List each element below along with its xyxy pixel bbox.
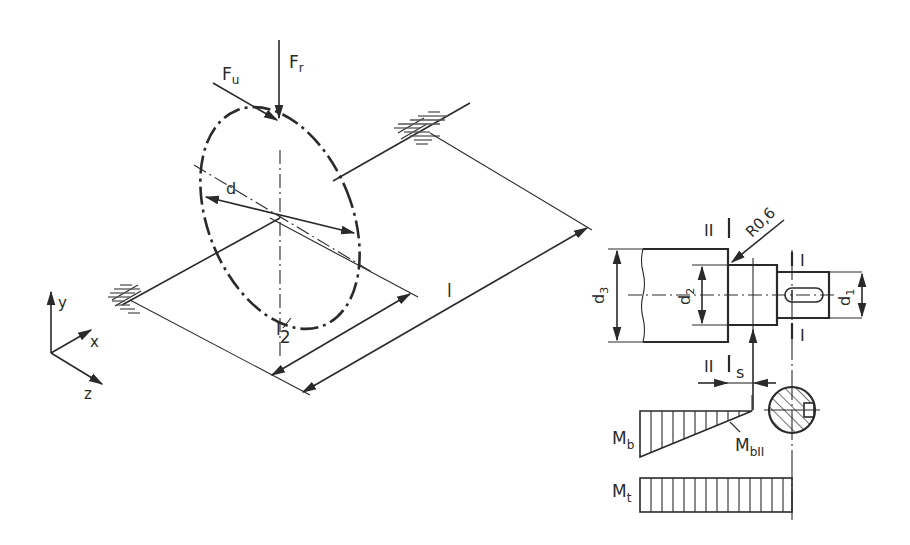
section-I-top-label: I xyxy=(800,251,805,270)
axis-x-label: x xyxy=(90,333,99,351)
fillet-radius-label: R0,6 xyxy=(742,204,779,241)
diagonal-centerline xyxy=(194,165,372,272)
mbII-leader xyxy=(730,422,740,432)
circumferential-force-label: Fu xyxy=(222,64,239,87)
section-II-bottom-label: II xyxy=(704,357,713,376)
torsion-moment-rect xyxy=(640,478,792,512)
shaft-detail-view: d3 d2 d1 R0,6 II II I I s xyxy=(589,204,862,520)
d1-label: d1 xyxy=(835,289,857,306)
isometric-view: d Fr Fu l2 l y x z xyxy=(51,40,592,403)
shaft-left-segment xyxy=(122,218,280,305)
section-II-top-label: II xyxy=(704,221,713,240)
radial-force-label: Fr xyxy=(289,52,304,75)
axis-y-label: y xyxy=(58,294,67,312)
torsion-moment-diagram: Mt xyxy=(612,478,792,512)
circumferential-force-arrow xyxy=(213,83,277,120)
d2-label: d2 xyxy=(675,288,697,305)
shaft-diagram: d Fr Fu l2 l y x z xyxy=(0,0,910,545)
left-bearing-icon xyxy=(108,285,141,313)
torsion-moment-label: Mt xyxy=(612,481,632,505)
cross-section-icon xyxy=(764,387,820,433)
half-length-dimension xyxy=(272,294,410,375)
bending-moment-II-label: MbII xyxy=(735,435,764,459)
right-bearing-extension xyxy=(430,133,592,230)
bending-moment-diagram: Mb MbII xyxy=(612,395,764,459)
d3-label: d3 xyxy=(589,287,611,304)
coordinate-axes-icon: y x z xyxy=(51,292,102,403)
shaft-right-segment xyxy=(333,103,470,181)
length-dimension xyxy=(303,228,587,392)
distance-s-label: s xyxy=(736,363,744,382)
section-I-bottom-label: I xyxy=(800,326,805,345)
diameter-d-label: d xyxy=(226,179,236,198)
left-bearing-extension xyxy=(130,300,310,395)
length-label: l xyxy=(447,281,452,301)
bending-moment-label: Mb xyxy=(612,428,634,452)
axis-z-label: z xyxy=(84,385,92,403)
